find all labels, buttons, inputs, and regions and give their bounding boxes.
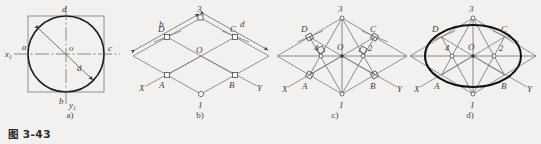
label-vertex-3: 3 [468, 4, 474, 14]
node-marker-3 [198, 15, 203, 20]
label-point-D: D [300, 24, 308, 34]
node-marker-4 [450, 54, 454, 58]
label-point-D: D [431, 24, 439, 34]
label-point-d-top: d [62, 4, 67, 14]
dimension-line-b [135, 14, 199, 50]
label-center-O: O [468, 42, 475, 52]
node-marker-4 [319, 54, 323, 58]
label-point-C: C [370, 24, 377, 34]
panel-sublabel-c: c) [320, 110, 350, 120]
panel-d-drawing: 3 1 D C A B O 4 2 X Y [408, 0, 541, 122]
label-vertex-1: 1 [198, 100, 203, 110]
label-center-O: O [337, 42, 344, 52]
label-axis-Y: Y [257, 83, 263, 93]
label-axis-X: X [138, 83, 145, 93]
label-vertex-3: 3 [337, 4, 343, 14]
label-point-A: A [433, 81, 440, 91]
figure-sheet: x1 a c d b y1 o d [0, 0, 541, 144]
label-axis-x1-sub: 1 [9, 54, 12, 60]
label-point-A: A [158, 80, 165, 90]
label-point-b: b [59, 96, 64, 106]
label-point-B: B [229, 80, 235, 90]
figure-panel-b: 3 1 D C A B O X Y b d [126, 0, 276, 122]
label-point-B: B [501, 81, 507, 91]
label-diameter-d: d [77, 63, 82, 73]
figure-panel-d: 3 1 D C A B O 4 2 X Y [408, 0, 541, 122]
label-axis-X: X [281, 84, 288, 94]
label-vertex-1: 1 [470, 100, 475, 110]
label-axis-Y: Y [527, 84, 533, 94]
label-center-o: o [69, 43, 74, 53]
node-marker-3 [471, 16, 475, 20]
axis-X-line [146, 56, 201, 86]
figure-caption: 图 3-43 [8, 126, 51, 141]
label-center-O: O [196, 45, 203, 55]
label-vertex-3: 3 [196, 4, 202, 14]
label-point-A: A [301, 81, 308, 91]
label-dim-b: b [159, 19, 164, 29]
label-axis-x1: x1 [4, 49, 12, 60]
label-center-2: 2 [368, 43, 373, 53]
label-vertex-1: 1 [339, 100, 344, 110]
panel-a-drawing: x1 a c d b y1 o d [0, 0, 135, 122]
figure-panel-c: 3 1 D C A B O 4 2 X Y [274, 0, 414, 122]
node-marker-2 [492, 54, 496, 58]
node-marker-3 [340, 16, 344, 20]
axis-X-line [288, 56, 342, 87]
node-marker-B [233, 73, 238, 78]
label-point-c: c [108, 43, 112, 53]
label-axis-X: X [413, 84, 420, 94]
node-marker-C [233, 35, 238, 40]
label-center-2: 2 [499, 43, 504, 53]
label-axis-Y: Y [397, 84, 403, 94]
figure-panel-a: x1 a c d b y1 o d [0, 0, 135, 122]
node-marker-1 [340, 92, 344, 96]
panel-sublabel-d: d) [455, 110, 485, 120]
label-point-B: B [370, 81, 376, 91]
label-dim-d: d [240, 19, 245, 29]
panel-sublabel-b: b) [185, 110, 215, 120]
label-point-C: C [501, 24, 508, 34]
node-marker-O [340, 54, 344, 58]
panel-sublabel-a: a) [55, 110, 85, 120]
node-marker-A [165, 73, 170, 78]
label-point-a: a [22, 42, 27, 52]
label-point-C: C [230, 24, 237, 34]
node-marker-D [165, 35, 170, 40]
node-marker-O [471, 54, 475, 58]
node-marker-1 [471, 92, 475, 96]
panel-c-drawing: 3 1 D C A B O 4 2 X Y [274, 0, 414, 122]
panel-b-drawing: 3 1 D C A B O X Y b d [126, 0, 276, 122]
node-marker-2 [361, 54, 365, 58]
node-marker-1 [198, 91, 203, 96]
